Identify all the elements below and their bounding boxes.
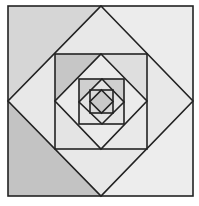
nested-squares-svg	[0, 0, 199, 206]
nested-squares-figure	[0, 0, 199, 206]
